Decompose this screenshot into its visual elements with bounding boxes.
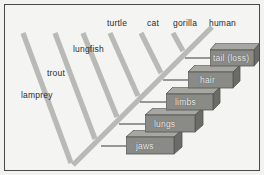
cladogram-figure: lamprey trout lungfish turtle cat gorill… [0, 0, 264, 175]
trait-label-hair: hair [200, 76, 215, 85]
trait-box-tail-loss[interactable]: tail (loss) [210, 43, 260, 68]
trait-box-limbs[interactable]: limbs [166, 87, 222, 112]
figure-frame: lamprey trout lungfish turtle cat gorill… [4, 4, 260, 171]
trait-label-jaws: jaws [136, 142, 154, 151]
box-top-face [210, 43, 260, 50]
trait-label-limbs: limbs [175, 98, 196, 107]
trait-label-lungs: lungs [154, 120, 175, 129]
trait-box-hair[interactable]: hair [188, 65, 242, 90]
trait-label-tail-loss: tail (loss) [213, 54, 249, 63]
